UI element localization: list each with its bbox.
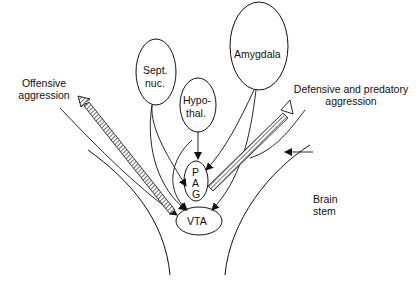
pag-label-g: G bbox=[192, 188, 200, 200]
vta-label: VTA bbox=[187, 215, 207, 227]
defensive-label-1: Defensive and predatory bbox=[291, 83, 411, 95]
diagram-canvas bbox=[0, 0, 419, 290]
amygdala-label: Amygdala bbox=[234, 48, 281, 60]
brain-stem-label-1: Brain bbox=[313, 193, 338, 205]
offensive-label-2: aggression bbox=[16, 89, 72, 101]
brain-stem-label-2: stem bbox=[313, 205, 336, 217]
offensive-label-1: Offensive bbox=[20, 77, 68, 89]
offensive-aggression-arrow bbox=[78, 96, 175, 214]
defensive-aggression-arrow bbox=[208, 100, 293, 191]
sept-nuc-label-1: Sept. bbox=[143, 64, 168, 76]
amygdala-node bbox=[230, 2, 288, 90]
hypothal-label-2: thal. bbox=[186, 107, 206, 119]
brain-stem-outline bbox=[88, 145, 310, 275]
hypothal-label-1: Hypo- bbox=[183, 94, 211, 106]
defensive-label-2: aggression bbox=[321, 95, 381, 107]
sept-nuc-label-2: nuc. bbox=[145, 77, 165, 89]
